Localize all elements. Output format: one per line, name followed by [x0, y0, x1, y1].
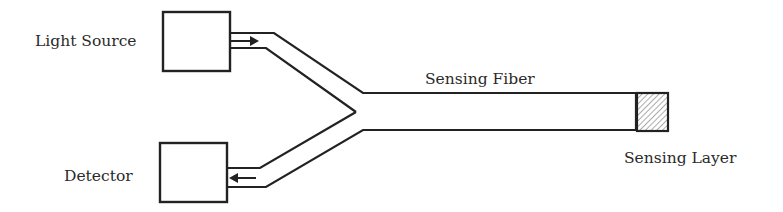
light-source-box — [163, 12, 230, 71]
detector-box — [160, 143, 227, 202]
arrow-left-icon — [229, 173, 256, 183]
sensing-layer-block — [637, 93, 668, 131]
detector-label: Detector — [64, 167, 133, 185]
sensing-fiber-label: Sensing Fiber — [425, 70, 535, 88]
arrow-right-icon — [230, 36, 259, 46]
sensing-layer-label: Sensing Layer — [624, 149, 737, 167]
fiber-sensor-diagram: Light Source Detector Sensing Fiber Sens… — [0, 0, 783, 212]
lower-fiber-branch — [227, 112, 636, 187]
light-source-label: Light Source — [35, 32, 137, 50]
